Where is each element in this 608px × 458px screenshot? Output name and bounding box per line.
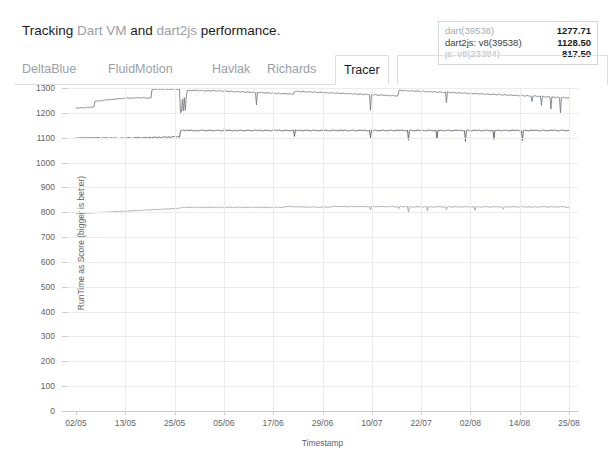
x-tick-label: 29/06 [312,418,333,428]
x-tick-mark [470,411,471,415]
title-part-dartvm: Dart VM [77,23,127,38]
x-axis-label: Timestamp [67,438,578,448]
x-tick-label: 13/05 [115,418,136,428]
grid-line-vertical [224,88,225,411]
tab-deltablue[interactable]: DeltaBlue [14,55,84,84]
x-tick-label: 14/08 [509,418,530,428]
page-header: Tracking Dart VM and dart2js performance… [0,0,608,52]
x-tick-label: 17/06 [263,418,284,428]
legend-row: dart(39538) 1277.71 [445,25,591,37]
grid-line-vertical [470,88,471,411]
legend-label-dart2js: dart2js: v8(39538) [445,37,530,49]
x-tick-mark [372,411,373,415]
y-tick-label: 500 [11,282,55,292]
y-tick-label: 800 [11,207,55,217]
y-tick-label: 1100 [11,133,55,143]
y-tick-mark [62,361,67,362]
y-tick-mark [62,262,67,263]
tab-overflow-area [397,55,608,85]
y-tick-label: 100 [11,381,55,391]
y-tick-mark [62,163,67,164]
x-tick-mark [520,411,521,415]
y-tick-label: 700 [11,232,55,242]
y-tick-label: 900 [11,182,55,192]
y-tick-mark [62,187,67,188]
y-axis-label: RunTime as Score (bigger is better) [76,83,86,403]
y-tick-mark [62,113,67,114]
y-tick-label: 1000 [11,158,55,168]
legend-value-dart: 1277.71 [557,25,591,37]
y-tick-mark [62,411,67,412]
page-title: Tracking Dart VM and dart2js performance… [22,22,280,39]
tab-tracer[interactable]: Tracer [335,55,389,85]
y-tick-mark [62,237,67,238]
y-tick-label: 300 [11,331,55,341]
tab-bar: DeltaBlue FluidMotion Havlak Richards Tr… [14,55,594,85]
title-part-dart2js: dart2js [157,23,198,38]
grid-line-vertical [273,88,274,411]
y-tick-mark [62,336,67,337]
x-tick-label: 25/08 [558,418,579,428]
y-tick-mark [62,138,67,139]
y-tick-mark [62,88,67,89]
x-tick-label: 05/06 [213,418,234,428]
grid-line-vertical [323,88,324,411]
legend-row: dart2js: v8(39538) 1128.50 [445,37,591,49]
y-tick-mark [62,287,67,288]
y-tick-mark [62,386,67,387]
grid-line-vertical [520,88,521,411]
title-part-2: and [127,23,157,38]
performance-chart: Timestamp RunTime as Score (bigger is be… [0,84,608,458]
x-tick-mark [224,411,225,415]
grid-line-vertical [372,88,373,411]
grid-line-vertical [125,88,126,411]
y-tick-mark [62,312,67,313]
tab-richards[interactable]: Richards [259,55,324,84]
x-tick-mark [76,411,77,415]
y-tick-label: 1200 [11,108,55,118]
tab-fluidmotion[interactable]: FluidMotion [100,55,181,84]
x-tick-mark [421,411,422,415]
y-tick-label: 400 [11,307,55,317]
grid-line-vertical [569,88,570,411]
y-tick-label: 1300 [11,83,55,93]
grid-line-vertical [421,88,422,411]
x-tick-mark [323,411,324,415]
legend-value-dart2js: 1128.50 [557,37,591,49]
y-tick-mark [62,212,67,213]
title-part-0: Tracking [22,23,77,38]
legend-label-dart: dart(39538) [445,25,502,37]
y-tick-label: 0 [11,406,55,416]
grid-line-vertical [175,88,176,411]
tab-havlak[interactable]: Havlak [204,55,258,84]
y-tick-label: 200 [11,356,55,366]
x-tick-mark [125,411,126,415]
x-tick-mark [175,411,176,415]
x-tick-label: 22/07 [410,418,431,428]
x-tick-label: 25/05 [164,418,185,428]
x-tick-mark [569,411,570,415]
x-tick-label: 02/05 [65,418,86,428]
y-tick-label: 600 [11,257,55,267]
title-part-4: performance. [197,23,280,38]
x-tick-label: 02/08 [460,418,481,428]
x-tick-label: 10/07 [361,418,382,428]
plot-area[interactable]: Timestamp RunTime as Score (bigger is be… [67,88,578,411]
x-tick-mark [273,411,274,415]
